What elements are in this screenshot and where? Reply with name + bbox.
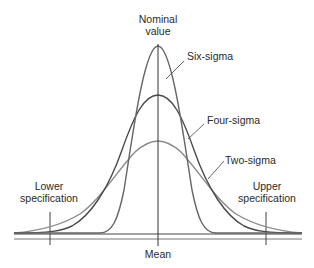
upper-spec-label: Upper specification xyxy=(232,180,302,204)
six-sigma-label: Six-sigma xyxy=(187,50,233,62)
four-sigma-leader xyxy=(188,124,204,139)
two-sigma-label: Two-sigma xyxy=(225,154,276,166)
nominal-line1: Nominal xyxy=(133,13,183,25)
four-sigma-label: Four-sigma xyxy=(207,114,260,126)
sigma-diagram xyxy=(0,0,314,268)
mean-label: Mean xyxy=(138,248,178,260)
upper-line1: Upper xyxy=(232,180,302,192)
nominal-line2: value xyxy=(133,25,183,37)
upper-line2: specification xyxy=(232,192,302,204)
lower-line2: specification xyxy=(14,192,84,204)
two-sigma-leader xyxy=(208,161,224,179)
lower-line1: Lower xyxy=(14,180,84,192)
lower-spec-label: Lower specification xyxy=(14,180,84,204)
nominal-value-label: Nominal value xyxy=(133,13,183,37)
